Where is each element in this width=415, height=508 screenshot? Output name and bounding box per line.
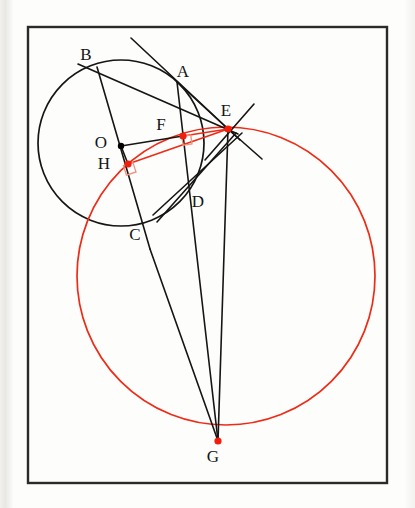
segments-group [78, 38, 262, 441]
point-dot-g [214, 437, 221, 444]
point-label-g: G [207, 447, 219, 466]
tangent-at-E-lower [228, 129, 262, 159]
geometry-diagram: ABCDEFGHO [0, 0, 415, 508]
point-dot-f [179, 132, 186, 139]
point-label-d: D [192, 192, 204, 211]
radius-O-to-F [121, 136, 183, 146]
diagram-frame [28, 27, 387, 483]
point-dot-o [118, 143, 124, 149]
point-dot-e [224, 125, 231, 132]
circles-group [38, 60, 375, 425]
point-label-h: H [98, 154, 110, 173]
point-label-o: O [95, 133, 107, 152]
point-label-f: F [156, 115, 165, 134]
point-label-c: C [129, 225, 140, 244]
point-dot-h [124, 160, 131, 167]
point-labels-group: ABCDEFGHO [80, 45, 231, 466]
point-label-e: E [221, 101, 231, 120]
point-label-b: B [80, 45, 91, 64]
point-label-a: A [177, 62, 190, 81]
right-angle-marks-group [123, 135, 192, 175]
figure-root: ABCDEFGHO [0, 0, 415, 508]
line-E-to-G [218, 129, 228, 441]
point-dots-group [118, 125, 232, 444]
